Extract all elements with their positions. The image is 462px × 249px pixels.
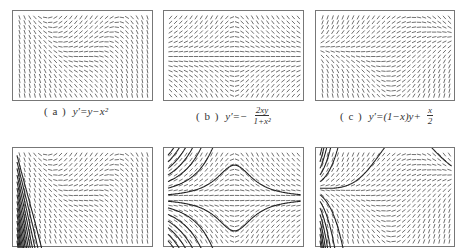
caption-c: ( c ) y′=(1−x)y+ x2: [340, 105, 433, 126]
slope-segments: [168, 153, 300, 244]
caption-label: ( b ): [196, 110, 219, 122]
equation-lhs: y′=(1−x)y+: [369, 110, 421, 122]
equation-lhs: y′=−: [225, 110, 247, 122]
slope-segments: [320, 152, 451, 243]
equation-lhs: y′=: [73, 105, 88, 117]
solution-curves-b: [163, 147, 304, 247]
equation-fraction: x2: [427, 105, 433, 126]
caption-b: ( b ) y′=− 2xy1+x²: [196, 105, 271, 126]
slope-field-a: [12, 10, 153, 101]
caption-a: ( a ) y′=y−x²: [44, 105, 108, 117]
caption-label: ( a ): [44, 105, 67, 117]
slope-field-c: [315, 10, 455, 101]
solution-curves-c: [315, 147, 455, 247]
solution-curves-a: [12, 147, 153, 247]
caption-label: ( c ): [340, 110, 363, 122]
slope-field-b: [163, 10, 304, 101]
slope-segments: [19, 152, 148, 243]
slope-segments: [320, 15, 451, 97]
slope-segments: [19, 15, 148, 97]
slope-segments: [168, 16, 300, 98]
equation-rhs: y−x²: [87, 105, 108, 117]
solution-curve: [320, 148, 452, 188]
equation-fraction: 2xy1+x²: [253, 105, 270, 126]
